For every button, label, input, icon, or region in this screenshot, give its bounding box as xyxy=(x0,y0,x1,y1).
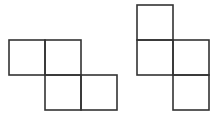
shape-right xyxy=(137,5,209,110)
square xyxy=(45,75,81,110)
shape-left xyxy=(9,40,117,110)
square xyxy=(137,40,173,75)
square xyxy=(45,40,81,75)
square xyxy=(137,5,173,40)
square xyxy=(173,75,209,110)
square xyxy=(81,75,117,110)
square xyxy=(9,40,45,75)
square xyxy=(173,40,209,75)
diagram-canvas xyxy=(0,0,218,116)
